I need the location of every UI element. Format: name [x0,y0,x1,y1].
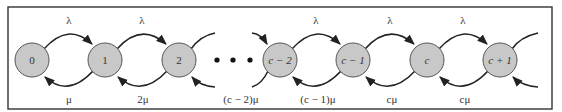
rate-label-forward: λ [460,14,466,26]
rate-label-forward: λ [387,14,393,26]
state-label: 2 [176,54,182,66]
state-1: 1 [88,43,122,77]
birth-death-diagram: 0 1 2 c − 2 c − 1 c c + 1 λ λ λ λ λ μ 2μ… [0,0,562,112]
state-c-minus-2: c − 2 [263,43,297,77]
rate-label-backward: 2μ [137,93,149,105]
rate-label-forward: λ [139,14,145,26]
state-label: c − 2 [268,54,292,66]
state-label: c + 1 [488,54,511,66]
rate-label-backward: (c − 1)μ [300,93,335,106]
rate-label-backward: cμ [460,93,471,105]
state-label: 0 [29,54,35,66]
state-label: c − 1 [341,54,364,66]
state-label: c [425,54,430,66]
state-0: 0 [15,43,49,77]
rate-label-backward: (c − 2)μ [223,93,258,106]
rate-label-backward: μ [66,93,72,105]
state-c-plus-1: c + 1 [483,43,517,77]
rate-label-forward: λ [313,14,319,26]
state-2: 2 [162,43,196,77]
rate-label-forward: λ [66,14,72,26]
state-c: c [410,43,444,77]
state-label: 1 [102,54,108,66]
state-c-minus-1: c − 1 [336,43,370,77]
rate-label-backward: cμ [387,93,398,105]
